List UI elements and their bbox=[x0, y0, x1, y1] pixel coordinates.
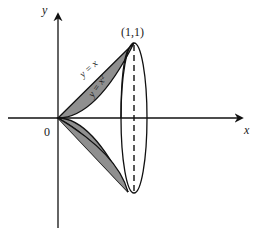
solid-of-revolution-diagram: y x 0 (1,1) y = x y = x² bbox=[0, 0, 253, 236]
x-axis-label: x bbox=[243, 123, 250, 137]
diagram-canvas: y x 0 (1,1) y = x y = x² bbox=[0, 0, 253, 236]
origin-label: 0 bbox=[44, 125, 50, 139]
y-axis-label: y bbox=[41, 3, 48, 17]
point-label: (1,1) bbox=[121, 25, 144, 39]
